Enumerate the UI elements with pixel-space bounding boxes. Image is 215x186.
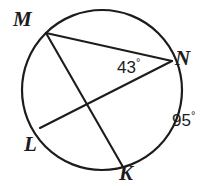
geometry-figure: M N L K 43° 95° — [0, 0, 215, 186]
inscribed-angle-degree-icon: ° — [136, 56, 140, 68]
vertex-label-n: N — [175, 48, 190, 69]
chord-mn — [46, 33, 172, 61]
arc-measure-degree-icon: ° — [191, 109, 195, 121]
arc-measure-value: 95 — [172, 111, 191, 130]
inscribed-angle-value: 43 — [117, 58, 136, 77]
arc-measure-label: 95° — [172, 110, 195, 129]
inscribed-angle-label: 43° — [117, 57, 140, 76]
vertex-label-k: K — [119, 163, 133, 184]
figure-canvas — [0, 0, 215, 186]
vertex-label-l: L — [24, 134, 37, 155]
vertex-label-m: M — [13, 9, 32, 30]
chord-mk — [46, 33, 123, 167]
chord-ln — [40, 61, 172, 128]
